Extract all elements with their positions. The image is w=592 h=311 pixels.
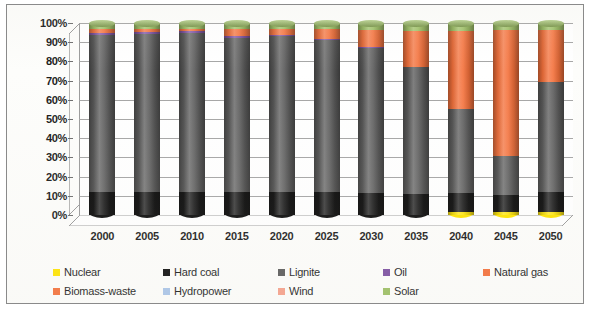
- bar-column[interactable]: [179, 23, 205, 215]
- bar-segment: [314, 40, 340, 192]
- bar-segment: [493, 156, 519, 194]
- legend-swatch-nuclear: [53, 269, 60, 276]
- bar-segment: [314, 39, 340, 40]
- bar-bottom-cap: [493, 212, 519, 218]
- bar-column[interactable]: [493, 23, 519, 215]
- bar-column[interactable]: [224, 23, 250, 215]
- x-axis: 2000200520102015202020252030203520402045…: [69, 229, 573, 245]
- bar-stack: [134, 23, 160, 215]
- bar-column[interactable]: [89, 23, 115, 215]
- bar-segment: [179, 31, 205, 33]
- legend-item[interactable]: Wind: [278, 282, 313, 300]
- legend-item[interactable]: Solar: [383, 282, 419, 300]
- bar-segment: [179, 33, 205, 192]
- legend-swatch-wind: [278, 288, 285, 295]
- chart-frame: 100%90%80%70%60%50%40%30%20%10%0% 200020…: [6, 4, 584, 304]
- bar-segment: [134, 32, 160, 34]
- legend-item[interactable]: Natural gas: [483, 263, 548, 281]
- bar-top-cap: [89, 20, 115, 27]
- y-tick-mark: [68, 157, 73, 158]
- legend-label: Oil: [394, 266, 407, 278]
- plot-area: [69, 23, 573, 226]
- y-tick-label: 30%: [21, 152, 67, 163]
- bar-column[interactable]: [538, 23, 564, 215]
- bar-column[interactable]: [448, 23, 474, 215]
- legend-swatch-oil: [383, 269, 390, 276]
- bar-column[interactable]: [358, 23, 384, 215]
- legend-item[interactable]: Oil: [383, 263, 407, 281]
- y-tick-mark: [68, 138, 73, 139]
- bar-segment: [538, 192, 564, 213]
- x-tick-label: 2035: [394, 229, 438, 243]
- bar-stack: [538, 23, 564, 215]
- bar-stack: [448, 23, 474, 215]
- bar-segment: [358, 48, 384, 193]
- legend-swatch-natural-gas: [483, 269, 490, 276]
- legend-item[interactable]: Nuclear: [53, 263, 101, 281]
- legend-swatch-biomass-waste: [53, 288, 60, 295]
- legend-label: Nuclear: [64, 266, 101, 278]
- y-tick-mark: [68, 81, 73, 82]
- bar-stack: [89, 23, 115, 215]
- y-tick-mark: [68, 215, 73, 216]
- bar-column[interactable]: [269, 23, 295, 215]
- bar-bottom-cap: [134, 212, 160, 218]
- legend-label: Natural gas: [494, 266, 548, 278]
- y-tick-mark: [68, 100, 73, 101]
- bar-top-cap: [358, 20, 384, 27]
- bar-stack: [224, 23, 250, 215]
- x-tick-label: 2025: [305, 229, 349, 243]
- bar-segment: [358, 30, 384, 47]
- x-tick-label: 2000: [80, 229, 124, 243]
- bar-segment: [358, 47, 384, 48]
- y-tick-label: 100%: [21, 18, 67, 29]
- y-tick-label: 0%: [21, 210, 67, 221]
- legend-item[interactable]: Hard coal: [163, 263, 219, 281]
- legend-item[interactable]: Lignite: [278, 263, 320, 281]
- legend-row-2: Biomass-wasteHydropowerWindSolar: [53, 282, 573, 300]
- bar-segment: [89, 33, 115, 35]
- x-tick-label: 2005: [125, 229, 169, 243]
- bar-bottom-cap: [224, 212, 250, 218]
- legend-swatch-lignite: [278, 269, 285, 276]
- legend-swatch-hard-coal: [163, 269, 170, 276]
- y-tick-mark: [68, 42, 73, 43]
- bar-bottom-cap: [179, 212, 205, 218]
- x-tick-label: 2015: [215, 229, 259, 243]
- bar-bottom-cap: [314, 212, 340, 218]
- legend-label: Hard coal: [174, 266, 219, 278]
- legend-swatch-solar: [383, 288, 390, 295]
- y-tick-label: 20%: [21, 171, 67, 182]
- legend-item[interactable]: Hydropower: [163, 282, 231, 300]
- x-tick-label: 2050: [529, 229, 573, 243]
- x-tick-label: 2020: [260, 229, 304, 243]
- bar-stack: [493, 23, 519, 215]
- bar-top-cap: [314, 20, 340, 27]
- legend-item[interactable]: Biomass-waste: [53, 282, 136, 300]
- y-tick-label: 50%: [21, 114, 67, 125]
- y-tick-label: 60%: [21, 94, 67, 105]
- bar-segment: [314, 29, 340, 40]
- bar-segment: [448, 193, 474, 213]
- bar-segment: [448, 109, 474, 193]
- x-tick-label: 2010: [170, 229, 214, 243]
- bar-segment: [538, 30, 564, 82]
- y-axis: 100%90%80%70%60%50%40%30%20%10%0%: [21, 16, 67, 208]
- bar-column[interactable]: [134, 23, 160, 215]
- bar-column[interactable]: [403, 23, 429, 215]
- bar-top-cap: [493, 20, 519, 27]
- bar-segment: [448, 31, 474, 110]
- bar-segment: [269, 35, 295, 37]
- bar-bottom-cap: [538, 212, 564, 218]
- y-tick-label: 70%: [21, 75, 67, 86]
- bar-column[interactable]: [314, 23, 340, 215]
- bar-top-cap: [538, 20, 564, 27]
- bar-top-cap: [269, 20, 295, 27]
- bar-stack: [314, 23, 340, 215]
- bar-top-cap: [179, 20, 205, 27]
- y-tick-mark: [68, 177, 73, 178]
- chart-legend: NuclearHard coalLigniteOilNatural gas Bi…: [53, 263, 573, 303]
- bar-stack: [358, 23, 384, 215]
- bar-stack: [403, 23, 429, 215]
- x-tick-label: 2030: [349, 229, 393, 243]
